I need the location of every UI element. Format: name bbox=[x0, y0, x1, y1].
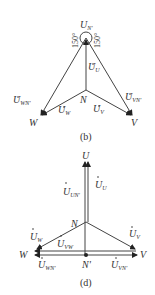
label-n: N bbox=[70, 218, 79, 229]
node-n-prime bbox=[84, 253, 88, 257]
angle-left: 150° bbox=[71, 33, 80, 48]
label-w: W bbox=[29, 117, 39, 128]
angle-right: 150° bbox=[93, 33, 102, 48]
label-uv: UV bbox=[93, 103, 105, 115]
caption-d: (d) bbox=[80, 277, 92, 289]
label-uvn: UVN' bbox=[125, 91, 142, 103]
label-uu: UU bbox=[88, 61, 100, 73]
label-uwn: UWN' bbox=[38, 259, 56, 271]
label-w: W bbox=[19, 249, 29, 260]
label-u: U bbox=[82, 150, 90, 161]
label-uun: UUN' bbox=[63, 186, 81, 198]
label-n: N bbox=[79, 94, 88, 105]
label-apex: UN' bbox=[80, 19, 93, 31]
label-n-prime: N' bbox=[81, 259, 92, 270]
label-uvw: UVW bbox=[57, 238, 74, 250]
phasor-uv bbox=[86, 222, 135, 249]
label-uvn: UVN' bbox=[111, 259, 128, 271]
label-uwn: UWN' bbox=[13, 94, 31, 106]
label-uw: UW bbox=[30, 231, 43, 243]
phasor-diagrams: UN' 150° 150° UU N UWN' UW UV UVN' W V (… bbox=[0, 0, 155, 295]
diagram-d: U UU UUN' N UW UVW UV W V N' UWN' UVN' (… bbox=[19, 150, 148, 289]
label-v: V bbox=[131, 117, 139, 128]
label-v: V bbox=[140, 249, 148, 260]
caption-b: (b) bbox=[80, 131, 92, 143]
label-uu: UU bbox=[95, 179, 107, 191]
label-uw: UW bbox=[58, 104, 71, 116]
label-uv: UV bbox=[129, 228, 141, 240]
diagram-b: UN' 150° 150° UU N UWN' UW UV UVN' W V (… bbox=[13, 19, 142, 143]
